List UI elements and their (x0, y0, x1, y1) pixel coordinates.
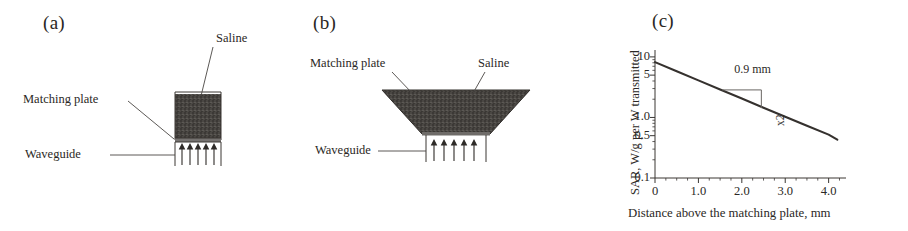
panel-a: (a) (0, 0, 300, 231)
panel-a-graphic (0, 0, 300, 231)
x-tick-label: 3.0 (765, 184, 805, 199)
label-saline-a: Saline (216, 32, 247, 45)
waveguide-arrows-b (432, 140, 477, 161)
y-tick-label: 0.1 (620, 170, 650, 185)
leader-saline-a (201, 47, 213, 96)
x-axis-title: Distance above the matching plate, mm (628, 206, 831, 221)
y-tick-label: 0.5 (620, 128, 650, 143)
x-tick-label: 0 (635, 184, 675, 199)
y-tick-label: 5 (620, 67, 650, 82)
annotation-halving-distance: 0.9 mm (734, 62, 771, 77)
saline-body-a (175, 94, 221, 139)
saline-trapezoid-b (382, 90, 530, 134)
label-waveguide-b: Waveguide (315, 144, 371, 157)
annotation-halving-factor: x2 (774, 115, 786, 127)
matching-plate-a (175, 138, 221, 142)
leader-matching-plate-a (128, 101, 174, 139)
matching-plate-b (422, 132, 490, 136)
label-waveguide-a: Waveguide (25, 148, 81, 161)
waveguide-arrows-a (180, 144, 217, 165)
panel-b-graphic (300, 0, 620, 231)
panel-c-chart: (c) SAR, W/g per W transmitted 01.02.03.… (620, 0, 908, 231)
x-tick-label: 4.0 (809, 184, 849, 199)
y-tick-label: 1.0 (620, 109, 650, 124)
label-saline-b: Saline (478, 57, 509, 70)
y-axis-ticks (650, 57, 655, 178)
figure-three-panel: (a) (0, 0, 908, 231)
panel-b: (b) (300, 0, 620, 231)
label-matching-plate-a: Matching plate (23, 93, 98, 106)
y-tick-label: 10 (620, 49, 650, 64)
x-tick-label: 1.0 (678, 184, 718, 199)
x-tick-label: 2.0 (722, 184, 762, 199)
x-axis-ticks (655, 178, 839, 183)
label-matching-plate-b: Matching plate (310, 57, 385, 70)
